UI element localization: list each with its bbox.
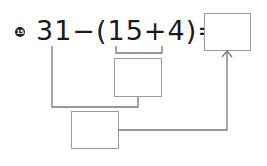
parentheses-result-box[interactable] (114, 58, 162, 97)
intermediate-result-box[interactable] (71, 111, 119, 149)
answer-box[interactable] (204, 13, 251, 51)
math-worksheet-problem: 15 31−(15+4)= (0, 0, 267, 166)
